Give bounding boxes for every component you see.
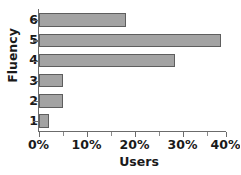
x-tick-label-20: 20% [112, 137, 158, 152]
x-axis-title: Users [0, 154, 240, 169]
bar-row-1 [39, 111, 50, 131]
bar-fluency-3 [39, 74, 63, 88]
x-tick-label-40: 40% [203, 137, 241, 152]
x-tick-label-30: 30% [160, 137, 206, 152]
bar-row-2 [39, 91, 63, 111]
x-tick-mark-5 [63, 132, 64, 136]
x-tick-label-0: 0% [16, 137, 62, 152]
bar-fluency-4 [39, 54, 175, 68]
plot-area [39, 10, 227, 131]
y-axis-ticks: 6 5 4 3 2 1 [0, 10, 38, 131]
bar-fluency-2 [39, 94, 63, 108]
bar-row-4 [39, 50, 175, 70]
x-tick-mark-35 [207, 132, 208, 136]
bar-chart: Fluency 6 5 4 3 2 1 [0, 0, 240, 175]
x-tick-mark-25 [159, 132, 160, 136]
bar-row-5 [39, 30, 221, 50]
x-tick-mark-15 [111, 132, 112, 136]
bar-fluency-1 [39, 114, 50, 128]
bar-row-3 [39, 71, 63, 91]
x-tick-label-10: 10% [64, 137, 110, 152]
bar-fluency-6 [39, 13, 126, 27]
bar-row-6 [39, 10, 126, 30]
bar-fluency-5 [39, 34, 221, 48]
